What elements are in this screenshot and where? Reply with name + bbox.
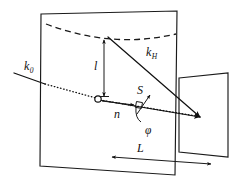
crystal-panel — [40, 11, 177, 175]
label-angle: φ — [145, 124, 152, 137]
label-incident-beam: k0 — [24, 59, 34, 75]
label-normal: n — [114, 107, 120, 121]
scattering-geometry-figure: k0 kH l n S φ L — [0, 0, 249, 193]
label-distance: L — [136, 141, 144, 155]
label-source-point: S — [137, 83, 143, 97]
diagram-canvas: k0 kH l n S φ L — [0, 0, 249, 193]
scattering-origin-point — [95, 96, 101, 102]
